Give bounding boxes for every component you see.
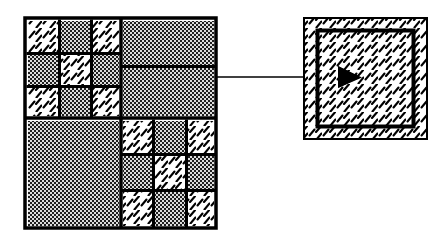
bottom-right-quadrant[interactable] xyxy=(122,120,216,228)
quad-cell-dot[interactable] xyxy=(123,21,214,65)
quad-cell-dot[interactable] xyxy=(123,156,152,189)
quad-cell-hatch[interactable] xyxy=(93,21,119,52)
quad-cell-dot[interactable] xyxy=(61,21,90,52)
top-left-quadrant[interactable] xyxy=(27,20,121,118)
quad-cell-dot[interactable] xyxy=(155,192,185,226)
quad-cell-dot[interactable] xyxy=(61,88,90,116)
quadtree-figure xyxy=(0,0,446,241)
quad-cell-hatch[interactable] xyxy=(188,121,214,153)
quad-cell-hatch[interactable] xyxy=(188,192,214,226)
quad-cell-dot[interactable] xyxy=(93,55,119,85)
quad-cell-dot[interactable] xyxy=(155,121,185,153)
quad-cell-dot[interactable] xyxy=(188,156,214,189)
detail-cell[interactable] xyxy=(303,17,428,140)
quad-cell-dot[interactable] xyxy=(28,121,119,226)
quad-cell-hatch[interactable] xyxy=(93,88,119,116)
quadtree-map[interactable] xyxy=(25,18,216,228)
top-right-quadrant[interactable] xyxy=(122,21,216,116)
quad-cell-hatch[interactable] xyxy=(123,121,152,153)
quad-cell-hatch[interactable] xyxy=(28,88,58,116)
quad-cell-hatch[interactable] xyxy=(155,156,185,189)
quad-cell-dot[interactable] xyxy=(28,55,58,85)
bottom-left-quadrant[interactable] xyxy=(28,121,119,226)
quad-cell-hatch[interactable] xyxy=(61,55,90,85)
quad-cell-dot[interactable] xyxy=(123,68,214,116)
quad-cell-hatch[interactable] xyxy=(28,21,58,52)
figure-canvas xyxy=(0,0,446,241)
detail-inner-fill[interactable] xyxy=(316,29,415,128)
quad-cell-hatch[interactable] xyxy=(123,192,152,226)
